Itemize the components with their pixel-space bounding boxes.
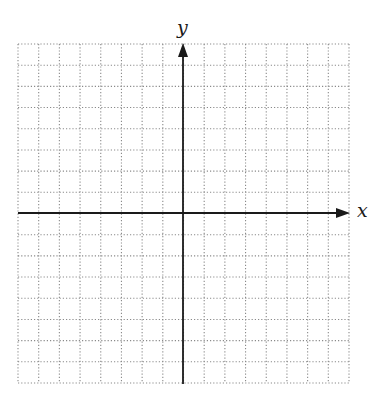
x-axis-arrow-icon — [336, 208, 350, 218]
x-axis-label: x — [357, 201, 368, 220]
y-axis-label: y — [177, 18, 188, 37]
y-axis-arrow-icon — [178, 43, 188, 57]
coordinate-grid — [0, 0, 376, 408]
